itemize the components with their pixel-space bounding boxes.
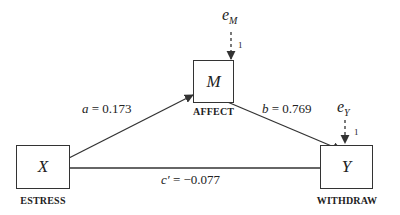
error-y-label: eY: [337, 98, 350, 118]
error-m-loading: 1: [238, 40, 243, 50]
node-m-label: AFFECT: [193, 106, 234, 117]
node-m-box: M: [193, 60, 234, 103]
node-y-symbol: Y: [342, 157, 351, 177]
path-c-prime-label: c′ = −0.077: [161, 172, 220, 188]
path-a-label: a = 0.173: [82, 101, 132, 117]
error-y-loading: 1: [354, 127, 359, 137]
node-y-box: Y: [320, 145, 373, 189]
error-m-label: eM: [222, 6, 237, 26]
node-x-label: ESTRESS: [8, 195, 78, 206]
node-y-label: WITHDRAW: [306, 195, 388, 206]
path-b-label: b = 0.769: [262, 101, 312, 117]
node-x-box: X: [16, 145, 70, 189]
node-x-symbol: X: [38, 157, 48, 177]
node-m-symbol: M: [206, 72, 220, 92]
